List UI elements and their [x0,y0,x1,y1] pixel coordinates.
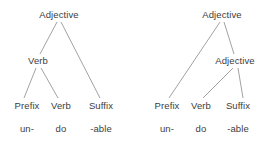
tree-edge [203,68,233,98]
syntax-tree-diagram: AdjectiveVerbPrefixVerbSuffixun-do-ableA… [0,0,276,141]
tree-word-r-word-able: -able [227,123,249,134]
tree-node-r-suffix: Suffix [226,100,250,111]
tree-node-l-root: Adjective [39,9,78,20]
tree-node-r-adj: Adjective [215,55,254,66]
tree-node-r-verb: Verb [191,100,211,111]
tree-edge [24,68,36,98]
tree-node-l-suffix: Suffix [89,100,113,111]
tree-edge [40,22,57,54]
tree-node-l-verb: Verb [28,55,48,66]
tree-node-l-prefix: Prefix [15,100,40,111]
tree-edge [41,68,58,98]
tree-node-r-root: Adjective [202,9,241,20]
tree-word-l-word-do: do [56,123,67,134]
tree-word-r-word-do: do [196,123,207,134]
tree-edge [238,68,243,98]
tree-edge [169,22,220,98]
tree-node-r-prefix: Prefix [155,100,180,111]
tree-node-l-verb2: Verb [51,100,71,111]
tree-word-r-word-un: un- [160,123,174,134]
tree-word-l-word-able: -able [90,123,112,134]
tree-edge [61,22,100,98]
tree-word-l-word-un: un- [20,123,34,134]
tree-edges-layer [0,0,276,141]
tree-edge [224,22,234,54]
